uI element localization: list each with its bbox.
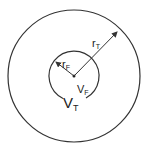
concentric-circles-diagram: rT rF VF VT <box>0 0 149 146</box>
inner-volume-label: VF <box>77 83 89 96</box>
outer-volume-label: VT <box>63 94 79 113</box>
outer-radius-label: rT <box>92 37 101 50</box>
inner-radius-label: rF <box>62 58 70 71</box>
